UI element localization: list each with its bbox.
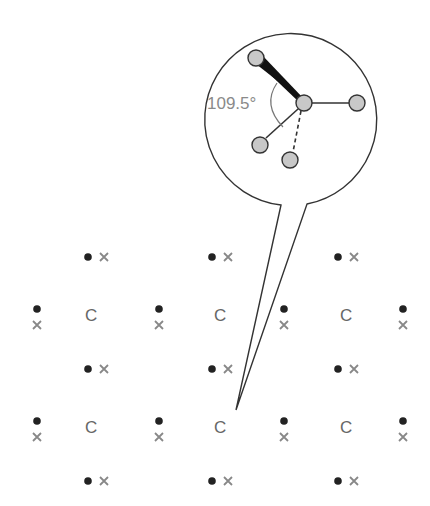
carbon-atom: C [340,306,352,325]
atom-right [349,95,365,111]
carbon-atom: C [214,306,226,325]
bond-angle-label: 109.5° [207,94,256,113]
horizontal-electron-pairs [84,253,358,485]
carbon-atom: C [85,306,97,325]
lattice-atoms: C C C C C C [85,306,352,437]
atom-lower-left [252,137,268,153]
atom-top-left [248,50,264,66]
atom-central [296,95,312,111]
diamond-lattice-diagram: 109.5° C C C C C C [0,0,430,506]
atom-bottom [282,152,298,168]
carbon-atom: C [214,418,226,437]
carbon-atom: C [85,418,97,437]
carbon-atom: C [340,418,352,437]
